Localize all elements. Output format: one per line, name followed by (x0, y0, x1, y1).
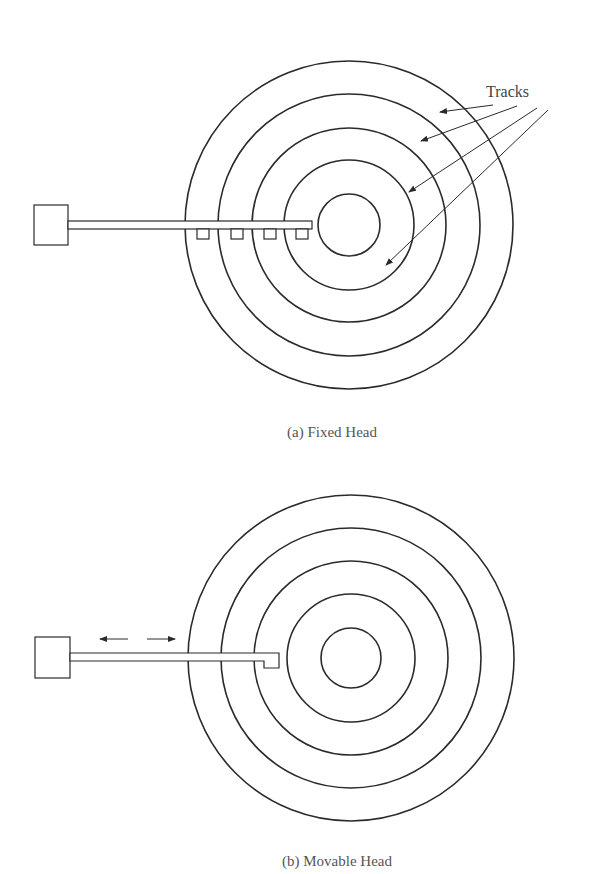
spindle-circle (321, 628, 381, 688)
arm-with-head (70, 653, 279, 668)
caption-movable-head: (b) Movable Head (282, 853, 392, 870)
track-circle (254, 561, 448, 755)
caption-fixed-head: (a) Fixed Head (287, 424, 377, 441)
actuator-box (34, 205, 68, 245)
head (197, 229, 209, 239)
movable-head-arm (35, 637, 279, 678)
spindle-circle (318, 194, 380, 256)
head (231, 229, 243, 239)
head (264, 229, 276, 239)
fixed-head-arm (34, 205, 312, 245)
tracks-label: Tracks (486, 83, 529, 101)
arm (68, 221, 312, 229)
actuator-box (35, 637, 70, 678)
track-circle (287, 594, 415, 722)
tracks-pointer-arrows (386, 105, 548, 265)
head (296, 229, 308, 239)
